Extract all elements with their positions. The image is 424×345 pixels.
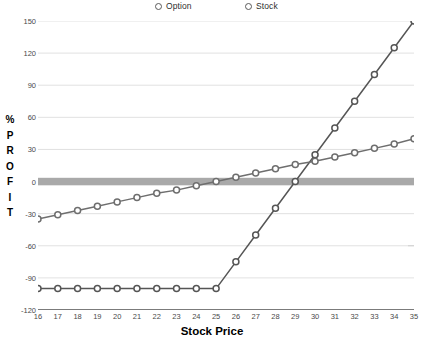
data-point-marker [332,125,338,131]
x-axis-tick-label: 20 [113,312,121,321]
chart-container: Option Stock %PROFIT 1501209060300-30-60… [0,0,424,345]
chart-legend: Option Stock [0,0,424,18]
x-axis-tick-label: 29 [291,312,299,321]
x-axis-tick-label: 30 [311,312,319,321]
data-point-marker [174,187,180,193]
x-axis-tick-label: 19 [93,312,101,321]
x-axis-tick-labels: 1617181920212223242526272829303132333435 [38,312,414,326]
data-point-marker [213,179,219,185]
series-option [38,21,414,292]
data-point-marker [391,141,397,147]
x-axis-tick-label: 25 [212,312,220,321]
x-axis-tick-label: 16 [34,312,42,321]
data-point-marker [312,158,318,164]
y-axis-tick-label: -30 [2,210,36,219]
x-axis-tick-label: 27 [252,312,260,321]
data-point-marker [193,286,199,292]
data-point-marker [233,259,239,265]
data-point-marker [352,98,358,104]
data-point-marker [253,232,259,238]
data-point-marker [272,205,278,211]
legend-marker-circle-icon [245,3,252,10]
x-axis-tick-label: 31 [331,312,339,321]
data-point-marker [154,286,160,292]
data-point-marker [411,21,414,24]
plot-svg [38,21,414,310]
y-axis-tick-label: 150 [2,17,36,26]
data-point-marker [174,286,180,292]
data-point-marker [114,199,120,205]
data-point-marker [371,145,377,151]
data-point-marker [114,286,120,292]
legend-marker-circle-icon [155,3,162,10]
data-point-marker [332,154,338,160]
data-point-marker [272,166,278,172]
x-axis-tick-label: 17 [54,312,62,321]
x-axis-tick-label: 26 [232,312,240,321]
data-point-marker [213,286,219,292]
data-point-marker [55,212,61,218]
legend-label-stock: Stock [256,2,278,11]
y-axis-tick-label: 0 [2,178,36,187]
data-point-marker [371,72,377,78]
data-point-marker [134,286,140,292]
data-point-marker [391,45,397,51]
data-point-marker [154,190,160,196]
x-axis-title: Stock Price [0,325,424,337]
x-axis-tick-label: 22 [153,312,161,321]
data-point-marker [75,207,81,213]
data-point-marker [233,174,239,180]
x-axis-tick-label: 32 [350,312,358,321]
data-point-marker [134,195,140,201]
x-axis-tick-label: 24 [192,312,200,321]
data-point-marker [312,152,318,158]
data-point-marker [352,150,358,156]
data-point-marker [38,216,41,222]
y-axis-tick-labels: 1501209060300-30-60-90-120 [0,21,36,310]
legend-item-stock[interactable]: Stock [245,2,278,11]
y-axis-tick-label: -60 [2,242,36,251]
y-axis-tick-label: 60 [2,113,36,122]
x-axis-tick-label: 34 [390,312,398,321]
data-point-marker [292,179,298,185]
data-point-marker [94,286,100,292]
data-point-marker [55,286,61,292]
plot-area [38,21,414,310]
data-point-marker [38,286,41,292]
x-axis-tick-label: 33 [370,312,378,321]
data-point-marker [411,136,414,142]
data-point-marker [253,170,259,176]
x-axis-tick-label: 21 [133,312,141,321]
legend-item-option[interactable]: Option [155,2,192,11]
x-axis-tick-label: 35 [410,312,418,321]
x-axis-tick-label: 28 [271,312,279,321]
y-axis-tick-label: -120 [2,306,36,315]
data-point-marker [193,183,199,189]
y-axis-tick-label: -90 [2,274,36,283]
legend-label-option: Option [166,2,192,11]
x-axis-tick-label: 23 [172,312,180,321]
x-axis-tick-label: 18 [73,312,81,321]
data-point-marker [292,161,298,167]
data-point-marker [94,203,100,209]
y-axis-tick-label: 30 [2,145,36,154]
data-point-marker [75,286,81,292]
y-axis-tick-label: 90 [2,81,36,90]
y-axis-tick-label: 120 [2,49,36,58]
